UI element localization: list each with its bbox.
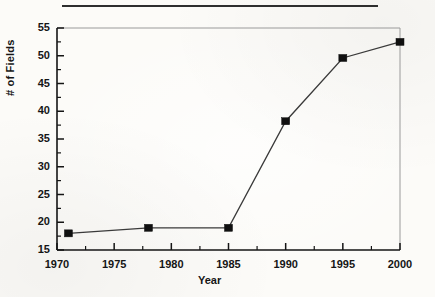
data-point-marker <box>225 224 233 231</box>
x-axis-tick-label: 1990 <box>266 258 306 270</box>
y-axis-tick-label: 15 <box>28 243 50 255</box>
x-axis-tick-label: 1975 <box>94 258 134 270</box>
x-axis-tick-label: 1995 <box>323 258 363 270</box>
x-axis-tick-label: 1970 <box>37 258 77 270</box>
y-axis-tick-label: 55 <box>28 21 50 33</box>
x-axis-tick-label: 1980 <box>151 258 191 270</box>
x-axis-tick-label: 1985 <box>209 258 249 270</box>
y-axis-tick-label: 35 <box>28 132 50 144</box>
y-axis-tick-label: 50 <box>28 49 50 61</box>
y-axis-tick-label: 20 <box>28 215 50 227</box>
data-line <box>68 42 400 233</box>
data-point-marker <box>396 38 404 45</box>
chart-canvas <box>0 0 435 297</box>
x-axis-tick-label: 2000 <box>380 258 420 270</box>
x-axis-title: Year <box>198 274 221 286</box>
y-axis-title: # of Fields <box>4 39 16 96</box>
line-chart: # of Fields Year 152025303540455055 1970… <box>0 0 435 297</box>
y-axis-tick-label: 25 <box>28 188 50 200</box>
data-point-marker <box>144 224 152 231</box>
plot-frame <box>57 28 400 250</box>
y-axis-tick-label: 30 <box>28 160 50 172</box>
y-axis-tick-label: 45 <box>28 77 50 89</box>
y-axis-tick-label: 40 <box>28 104 50 116</box>
data-point-marker <box>64 230 72 237</box>
data-point-marker <box>339 54 347 61</box>
data-point-marker <box>282 118 290 125</box>
